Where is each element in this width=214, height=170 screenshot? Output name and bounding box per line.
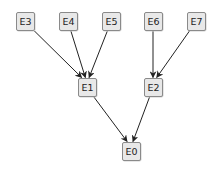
node-e0[interactable]: E0 <box>122 142 141 161</box>
node-e1[interactable]: E1 <box>78 78 97 97</box>
node-e6[interactable]: E6 <box>144 12 163 31</box>
node-e5[interactable]: E5 <box>102 12 121 31</box>
node-e4[interactable]: E4 <box>59 12 78 31</box>
node-e7[interactable]: E7 <box>187 12 206 31</box>
edge-e2-e0 <box>133 97 150 142</box>
edge-e4-e1 <box>71 31 86 78</box>
edge-e1-e0 <box>94 97 128 142</box>
node-e2[interactable]: E2 <box>144 78 163 97</box>
node-e3[interactable]: E3 <box>16 12 35 31</box>
edge-e3-e1 <box>34 31 82 78</box>
edge-e5-e1 <box>89 31 107 78</box>
edge-e7-e2 <box>157 31 190 78</box>
